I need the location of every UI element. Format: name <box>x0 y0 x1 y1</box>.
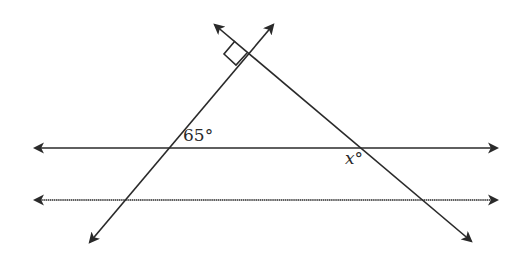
transversal-right <box>215 25 471 241</box>
transversal-left <box>90 25 273 242</box>
geometry-diagram <box>0 0 517 264</box>
angle-x-label: x° <box>345 150 363 167</box>
angle-65-label: 65° <box>183 127 213 144</box>
right-angle-marker <box>224 41 247 65</box>
